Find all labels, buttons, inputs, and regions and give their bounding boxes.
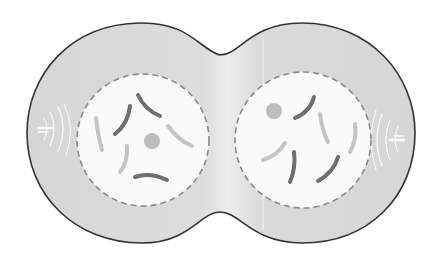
- cell-division-diagram: [0, 0, 441, 263]
- right-nucleolus: [266, 103, 282, 119]
- left-nucleus: [77, 74, 209, 206]
- left-nucleolus: [144, 133, 160, 149]
- right-nucleus: [235, 72, 371, 208]
